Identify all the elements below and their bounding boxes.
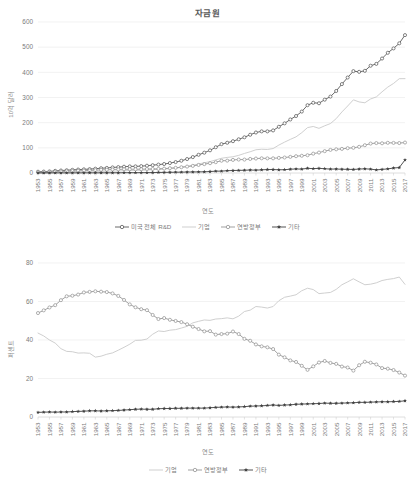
svg-text:400: 400 <box>22 69 33 76</box>
svg-text:1973: 1973 <box>149 178 156 192</box>
svg-text:2001: 2001 <box>310 422 317 436</box>
svg-text:1995: 1995 <box>275 422 282 436</box>
bottom-chart-plot: 0204060801953195519571959196119631965196… <box>0 249 415 459</box>
svg-text:1963: 1963 <box>92 178 99 192</box>
svg-text:1969: 1969 <box>126 422 133 436</box>
chart-funding-source-absolute: 자금원 010020030040050060019531955195719591… <box>0 0 415 248</box>
svg-text:20: 20 <box>26 375 34 382</box>
svg-text:1979: 1979 <box>183 422 190 436</box>
svg-text:1991: 1991 <box>252 178 259 192</box>
legend-item-top-1[interactable]: 미국 전체 R&D <box>115 222 172 231</box>
legend-marker-icon <box>221 223 235 231</box>
svg-text:1999: 1999 <box>298 178 305 192</box>
svg-text:1979: 1979 <box>183 178 190 192</box>
legend-item-top-4[interactable]: 기타 <box>272 222 300 231</box>
charts-page: 자금원 010020030040050060019531955195719591… <box>0 0 415 497</box>
svg-text:2005: 2005 <box>333 422 340 436</box>
svg-text:1961: 1961 <box>80 178 87 192</box>
svg-text:2017: 2017 <box>401 422 408 436</box>
svg-text:1991: 1991 <box>252 422 259 436</box>
svg-text:1971: 1971 <box>138 178 145 192</box>
svg-text:1967: 1967 <box>115 178 122 192</box>
top-y-axis-title: 10억 달러 <box>6 81 15 129</box>
svg-text:2009: 2009 <box>356 178 363 192</box>
svg-text:1961: 1961 <box>80 422 87 436</box>
top-chart-plot: 0100200300400500600195319551957195919611… <box>0 0 415 215</box>
legend-item-bottom-3[interactable]: 기타 <box>239 465 267 474</box>
svg-text:1995: 1995 <box>275 178 282 192</box>
svg-text:500: 500 <box>22 43 33 50</box>
svg-text:1963: 1963 <box>92 422 99 436</box>
svg-text:2001: 2001 <box>310 178 317 192</box>
svg-text:1959: 1959 <box>69 422 76 436</box>
svg-text:60: 60 <box>26 298 34 305</box>
svg-text:2015: 2015 <box>390 178 397 192</box>
svg-text:300: 300 <box>22 94 33 101</box>
legend-item-top-2[interactable]: 기업 <box>182 222 210 231</box>
legend-label: 기타 <box>255 465 267 474</box>
svg-text:1977: 1977 <box>172 178 179 192</box>
svg-text:2017: 2017 <box>401 178 408 192</box>
svg-text:2015: 2015 <box>390 422 397 436</box>
svg-text:2003: 2003 <box>321 178 328 192</box>
svg-text:1989: 1989 <box>241 178 248 192</box>
top-x-axis-title: 연도 <box>0 206 415 215</box>
bottom-y-axis-title: 퍼센트 <box>6 325 15 373</box>
legend-item-top-3[interactable]: 연방정부 <box>221 222 261 231</box>
legend-item-bottom-2[interactable]: 연방정부 <box>188 465 228 474</box>
svg-text:40: 40 <box>26 336 34 343</box>
svg-text:1985: 1985 <box>218 178 225 192</box>
svg-text:1987: 1987 <box>229 178 236 192</box>
legend-label: 기타 <box>288 222 300 231</box>
svg-text:1997: 1997 <box>287 422 294 436</box>
svg-text:1981: 1981 <box>195 178 202 192</box>
svg-text:1969: 1969 <box>126 178 133 192</box>
top-chart-legend: 미국 전체 R&D기업연방정부기타 <box>0 222 415 231</box>
legend-marker-icon <box>272 223 286 231</box>
svg-text:1953: 1953 <box>34 178 41 192</box>
svg-text:200: 200 <box>22 119 33 126</box>
svg-text:1997: 1997 <box>287 178 294 192</box>
svg-text:2011: 2011 <box>367 422 374 436</box>
chart-funding-source-share: 0204060801953195519571959196119631965196… <box>0 249 415 497</box>
svg-text:1977: 1977 <box>172 422 179 436</box>
svg-text:1989: 1989 <box>241 422 248 436</box>
svg-text:1955: 1955 <box>46 422 53 436</box>
svg-text:0: 0 <box>29 413 33 420</box>
svg-text:1993: 1993 <box>264 178 271 192</box>
svg-text:1983: 1983 <box>206 422 213 436</box>
svg-text:1957: 1957 <box>57 422 64 436</box>
svg-text:1959: 1959 <box>69 178 76 192</box>
svg-text:1965: 1965 <box>103 178 110 192</box>
svg-text:1999: 1999 <box>298 422 305 436</box>
svg-text:2003: 2003 <box>321 422 328 436</box>
svg-text:1973: 1973 <box>149 422 156 436</box>
svg-text:2011: 2011 <box>367 178 374 192</box>
svg-text:1965: 1965 <box>103 422 110 436</box>
legend-label: 미국 전체 R&D <box>131 222 172 231</box>
svg-text:1955: 1955 <box>46 178 53 192</box>
svg-text:2013: 2013 <box>378 422 385 436</box>
svg-text:1987: 1987 <box>229 422 236 436</box>
bottom-chart-legend: 기업연방정부기타 <box>0 465 415 474</box>
svg-text:100: 100 <box>22 144 33 151</box>
svg-text:1993: 1993 <box>264 422 271 436</box>
legend-label: 연방정부 <box>204 465 228 474</box>
svg-text:1971: 1971 <box>138 422 145 436</box>
svg-text:1981: 1981 <box>195 422 202 436</box>
legend-marker-icon <box>182 223 196 231</box>
svg-text:80: 80 <box>26 259 34 266</box>
legend-marker-icon <box>115 223 129 231</box>
svg-text:600: 600 <box>22 18 33 25</box>
svg-text:1975: 1975 <box>161 178 168 192</box>
legend-marker-icon <box>239 466 253 474</box>
svg-text:0: 0 <box>29 169 33 176</box>
svg-text:1967: 1967 <box>115 422 122 436</box>
bottom-x-axis-title: 연도 <box>0 447 415 456</box>
svg-text:1983: 1983 <box>206 178 213 192</box>
svg-text:2007: 2007 <box>344 422 351 436</box>
legend-marker-icon <box>149 466 163 474</box>
svg-text:1985: 1985 <box>218 422 225 436</box>
legend-item-bottom-1[interactable]: 기업 <box>149 465 177 474</box>
svg-text:2009: 2009 <box>356 422 363 436</box>
